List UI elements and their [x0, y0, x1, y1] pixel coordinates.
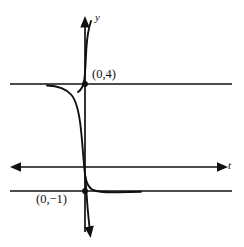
y-axis-top-arrowhead: [80, 16, 89, 28]
intercept-dot-lower: [82, 188, 88, 194]
math-figure: (0,4) (0,−1) y t: [0, 0, 244, 247]
curve-bottom-arrowhead: [85, 226, 94, 238]
t-axis-label: t: [228, 160, 231, 171]
intercept-dot-upper: [82, 81, 88, 87]
point-label-upper: (0,4): [92, 68, 116, 81]
point-label-lower: (0,−1): [36, 193, 67, 206]
t-axis-right-arrowhead: [217, 162, 228, 172]
t-axis-left-arrowhead: [10, 162, 21, 172]
middle-descending-branch: [47, 86, 85, 177]
figure-canvas: [0, 0, 244, 247]
lower-right-flattening-branch: [85, 176, 141, 192]
y-axis-label: y: [95, 12, 100, 23]
